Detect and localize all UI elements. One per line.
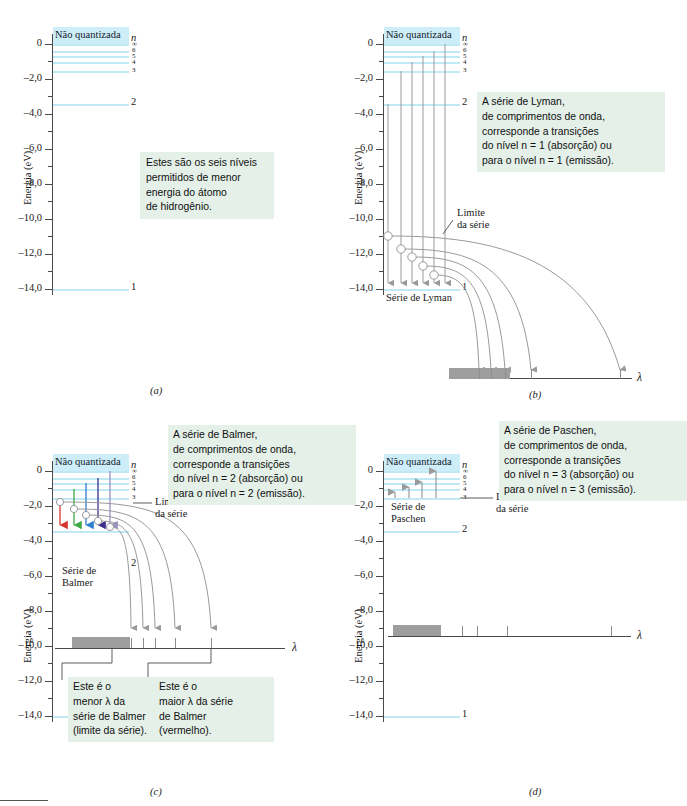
panel-a-unquantized-label: Não quantizada: [55, 29, 121, 40]
panel-b-label: (b): [529, 389, 541, 400]
panel-c-note-right-line-0: Este é o: [159, 680, 269, 695]
panel-c-note-right-line-1: maior λ da série: [159, 695, 269, 710]
panel-b-spectral-line: [505, 369, 506, 379]
panel-a-nlabel-2: 2: [131, 97, 136, 108]
panel-a-ytick-1: –2,0: [5, 72, 42, 83]
panel-a-level-4: [53, 62, 129, 64]
panel-b: Energia (eV) 0 –2,0 –4,0 –6,0 –8,0 –10,0…: [331, 0, 662, 403]
panel-a-ytick-2: –4,0: [5, 107, 42, 118]
panel-a-tick-major: [45, 254, 53, 255]
panel-d-callout-line-4: para o nível n = 3 (emissão).: [504, 483, 682, 498]
panel-b-transition-overlay: [331, 0, 662, 403]
panel-c: Energia (eV) 0 –2,0 –4,0 –6,0 –8,0 –10,0…: [0, 403, 331, 806]
panel-c-callout-line-0: A série de Balmer,: [173, 428, 351, 443]
panel-a-tick-minor: [48, 131, 53, 132]
panel-c-spectral-line: [131, 638, 132, 648]
panel-b-series-limit-line-1: da série: [457, 219, 489, 231]
panel-b-callout-line-0: A série de Lyman,: [482, 95, 660, 110]
panel-c-label: (c): [150, 786, 162, 797]
panel-c-callout-line-4: para o nível n = 2 (emissão).: [173, 487, 351, 502]
panel-a-tick-minor: [48, 96, 53, 97]
panel-d-spectral-line: [477, 626, 478, 636]
panel-a-level-1: [53, 289, 129, 291]
panel-d-series-limit-line-1: da série: [496, 503, 528, 515]
panel-c-continuum-block: [72, 637, 130, 648]
panel-a-nlabel-1: 1: [131, 282, 136, 293]
panel-b-spectral-line: [491, 369, 492, 379]
panel-a-ytick-6: –12,0: [3, 247, 42, 258]
panel-a-ytick-4: –8,0: [5, 177, 42, 188]
panel-a-tick-minor: [48, 236, 53, 237]
panel-a-tick-major: [45, 114, 53, 115]
panel-a-level-inf: [53, 44, 129, 46]
panel-a-nlabel-3: 3: [132, 67, 136, 74]
panel-a-callout-line-0: Estes são os seis níveis: [146, 156, 268, 171]
panel-d-callout-line-3: do nível n = 3 (absorção) ou: [504, 468, 682, 483]
panel-c-lambda-symbol: λ: [292, 641, 297, 653]
panel-c-note-right: Este é o maior λ da série de Balmer (ver…: [154, 677, 274, 742]
panel-a-tick-minor: [48, 201, 53, 202]
panel-c-callout: A série de Balmer, de comprimentos de on…: [168, 425, 356, 505]
panel-d-callout-line-1: de comprimentos de onda,: [504, 439, 682, 454]
panel-c-spectral-line: [143, 638, 144, 648]
panel-a-ytick-3: –6,0: [5, 142, 42, 153]
panel-a-tick-minor: [48, 271, 53, 272]
panel-d-spectral-line: [611, 626, 612, 636]
panel-b-series-limit-line-0: Limite: [457, 207, 489, 219]
panel-c-note-right-line-3: (vermelho).: [159, 724, 269, 739]
panel-d-series-name: Série de Paschen: [391, 501, 425, 525]
panel-a-level-6: [53, 51, 129, 53]
panel-d-continuum-block: [393, 625, 441, 636]
panel-c-series-name-line-0: Série de: [62, 565, 96, 577]
panel-d-label: (d): [529, 786, 541, 797]
panel-a-ytick-7: –14,0: [3, 282, 42, 293]
panel-a-callout: Estes são os seis níveis permitidos de m…: [140, 152, 274, 219]
panel-a-tick-minor: [48, 166, 53, 167]
panel-d-lambda-axis: [388, 636, 631, 637]
panel-b-spectral-line: [531, 369, 532, 379]
panel-a-tick-major: [45, 44, 53, 45]
panel-a-tick-major: [45, 149, 53, 150]
panel-a-callout-line-2: energia do átomo: [146, 186, 268, 201]
figure-bottom-rule: [0, 800, 48, 801]
panel-b-lambda-symbol: λ: [637, 371, 642, 383]
panel-a-ytick-0: 0: [5, 37, 42, 48]
panel-b-spectral-line: [479, 369, 480, 379]
panel-d-spectral-line: [507, 626, 508, 636]
panel-a-label: (a): [150, 385, 162, 396]
panel-d-series-name-line-0: Série de: [391, 501, 425, 513]
panel-c-callout-line-3: do nível n = 2 (absorção) ou: [173, 472, 351, 487]
panel-a-tick-major: [45, 289, 53, 290]
panel-c-series-name: Série de Balmer: [62, 565, 96, 589]
panel-c-callout-line-2: corresponde a transições: [173, 458, 351, 473]
panel-d-callout-line-2: corresponde a transições: [504, 454, 682, 469]
panel-a-y-axis: [52, 34, 53, 295]
panel-b-callout-line-2: corresponde a transições: [482, 125, 660, 140]
panel-c-series-limit-line-1: da série: [155, 508, 187, 520]
panel-b-callout-line-4: para o nível n = 1 (emissão).: [482, 154, 660, 169]
panel-a-callout-line-3: de hidrogênio.: [146, 200, 268, 215]
panel-a: Energia (eV) 0 –2,0 –4,0 –6,0 –8,0 –10,0…: [0, 0, 331, 403]
panel-a-tick-major: [45, 79, 53, 80]
panel-d-lambda-symbol: λ: [637, 629, 642, 641]
panel-c-callout-line-1: de comprimentos de onda,: [173, 443, 351, 458]
panel-a-level-2: [53, 104, 129, 106]
panel-c-spectral-line: [175, 638, 176, 648]
panel-c-spectral-line: [155, 638, 156, 648]
panel-a-ytick-5: –10,0: [3, 212, 42, 223]
panel-b-series-name: Série de Lyman: [386, 292, 452, 304]
panel-b-callout-line-1: de comprimentos de onda,: [482, 110, 660, 125]
panel-d: Energia (eV) 0 –2,0 –4,0 –6,0 –8,0 –10,0…: [331, 403, 662, 806]
panel-b-callout-line-3: do nível n = 1 (absorção) ou: [482, 139, 660, 154]
panel-c-spectral-line: [211, 638, 212, 648]
panel-c-series-name-line-1: Balmer: [62, 577, 96, 589]
panel-a-level-5: [53, 56, 129, 58]
panel-b-spectral-line: [620, 369, 621, 379]
panel-a-callout-line-1: permitidos de menor: [146, 171, 268, 186]
panel-c-lambda-axis: [55, 648, 285, 649]
panel-a-tick-major: [45, 219, 53, 220]
panel-b-callout: A série de Lyman, de comprimentos de ond…: [477, 92, 665, 172]
panel-a-level-3: [53, 71, 129, 73]
panel-a-tick-major: [45, 184, 53, 185]
panel-d-callout: A série de Paschen, de comprimentos de o…: [499, 421, 687, 501]
